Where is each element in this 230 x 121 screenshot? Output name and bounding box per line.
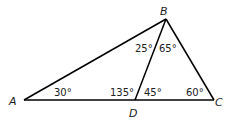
vertex-label-d: D <box>129 107 137 120</box>
triangle-diagram: A B C D 30° 25° 65° 135° 45° 60° <box>0 0 230 121</box>
angle-bdc: 45° <box>144 87 162 98</box>
vertex-label-b: B <box>160 5 168 18</box>
angle-dbc: 65° <box>159 43 177 54</box>
angle-c: 60° <box>186 87 204 98</box>
angle-a: 30° <box>54 87 72 98</box>
vertex-label-c: C <box>215 96 223 109</box>
angle-abd: 25° <box>135 43 153 54</box>
angle-adb: 135° <box>110 87 134 98</box>
vertex-label-a: A <box>8 95 17 108</box>
